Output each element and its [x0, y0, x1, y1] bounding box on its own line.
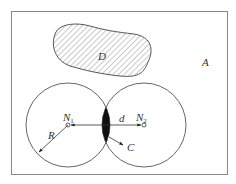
node-1-label: N1 [62, 111, 74, 125]
overlap-label: C [127, 141, 135, 153]
radius-label: R [47, 129, 55, 141]
distance-label: d [119, 112, 125, 124]
region-label: A [201, 56, 209, 68]
node-2-label: N2 [135, 111, 147, 125]
network-diagram: D A N1 N2 R d C [0, 0, 236, 184]
obstacle-label: D [97, 50, 106, 62]
overlap-pointer-arrow [109, 137, 123, 145]
